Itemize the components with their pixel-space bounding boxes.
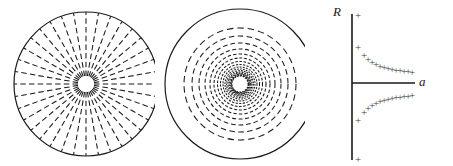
panel-concentric-rings-disk bbox=[155, 0, 305, 166]
radial-spoke bbox=[91, 29, 132, 78]
scatter-plus-marker: + bbox=[355, 153, 361, 165]
scatter-plus-marker: + bbox=[409, 89, 415, 101]
radial-spoke bbox=[92, 38, 141, 79]
y-axis-label: R bbox=[332, 4, 341, 19]
radial-spoke bbox=[94, 85, 155, 96]
scatter-plus-marker: + bbox=[409, 66, 415, 78]
radial-spoke bbox=[24, 48, 79, 80]
scatter-plus-marker: + bbox=[355, 9, 361, 21]
radial-spoke bbox=[40, 29, 81, 78]
radial-spoke bbox=[15, 85, 78, 96]
radial-spoke bbox=[74, 92, 85, 155]
radial-spoke bbox=[74, 13, 85, 76]
radial-spoke bbox=[40, 90, 81, 139]
radial-spoke bbox=[87, 13, 98, 76]
scatter-marker-group: ++++++++++++++++++++++++++++++ bbox=[355, 9, 415, 165]
radial-spoke bbox=[90, 22, 122, 77]
rings-center-hole bbox=[233, 77, 247, 91]
panel-radial-spokes-disk bbox=[0, 0, 155, 166]
radial-spoke bbox=[15, 72, 78, 83]
radial-spoke bbox=[50, 91, 82, 146]
radial-spoke bbox=[31, 89, 80, 130]
radial-spoke bbox=[24, 88, 79, 120]
x-axis-label: a bbox=[419, 74, 426, 89]
radial-spoke bbox=[50, 22, 82, 77]
radial-spoke bbox=[90, 91, 122, 146]
panel-r-versus-a-scatter: R a ++++++++++++++++++++++++++++++ bbox=[300, 0, 453, 166]
radial-spoke bbox=[93, 48, 148, 80]
radial-spoke bbox=[31, 38, 80, 79]
radial-spoke bbox=[93, 88, 148, 120]
figure-root: R a ++++++++++++++++++++++++++++++ bbox=[0, 0, 453, 166]
radial-spoke bbox=[94, 72, 155, 83]
radial-spoke bbox=[92, 89, 141, 130]
radial-spoke bbox=[87, 92, 98, 155]
scatter-axes bbox=[352, 14, 415, 160]
radial-center-hole bbox=[78, 76, 94, 92]
radial-spoke bbox=[91, 90, 132, 139]
